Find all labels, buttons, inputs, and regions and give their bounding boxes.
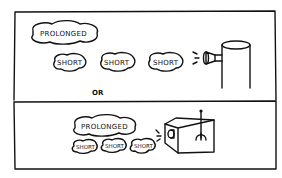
prolonged-cloud-bottom: PROLONGED — [74, 115, 136, 137]
short-label-bottom-2: SHORT — [105, 143, 124, 149]
short-cloud-top-2: SHORT — [101, 53, 135, 72]
box-lever-icon — [165, 109, 214, 153]
short-label-top-2: SHORT — [104, 59, 130, 67]
bottom-panel: PROLONGED SHORT SHORT SHORT — [14, 101, 276, 169]
bottom-panel-frame — [14, 101, 276, 169]
short-cloud-bottom-1: SHORT — [72, 140, 97, 154]
short-cloud-bottom-3: SHORT — [130, 139, 155, 154]
short-cloud-top-3: SHORT — [149, 53, 183, 72]
or-separator-label: OR — [92, 89, 104, 97]
short-cloud-bottom-2: SHORT — [101, 139, 126, 153]
emission-marks-bottom — [156, 130, 161, 141]
diagram-canvas: PROLONGED SHORT SHORT SHORT OR — [0, 0, 282, 178]
prolonged-label-bottom: PROLONGED — [81, 123, 128, 131]
short-label-bottom-3: SHORT — [134, 143, 153, 149]
short-cloud-top-1: SHORT — [54, 54, 86, 72]
top-panel: PROLONGED SHORT SHORT SHORT — [14, 11, 276, 100]
top-panel-frame — [14, 11, 276, 100]
prolonged-cloud-top: PROLONGED — [32, 21, 98, 45]
short-label-bottom-1: SHORT — [76, 144, 95, 150]
cylinder-nozzle-icon — [204, 41, 251, 88]
emission-marks-top — [193, 52, 199, 64]
prolonged-label-top: PROLONGED — [40, 30, 87, 38]
short-label-top-3: SHORT — [153, 59, 179, 67]
short-label-top-1: SHORT — [57, 59, 83, 67]
